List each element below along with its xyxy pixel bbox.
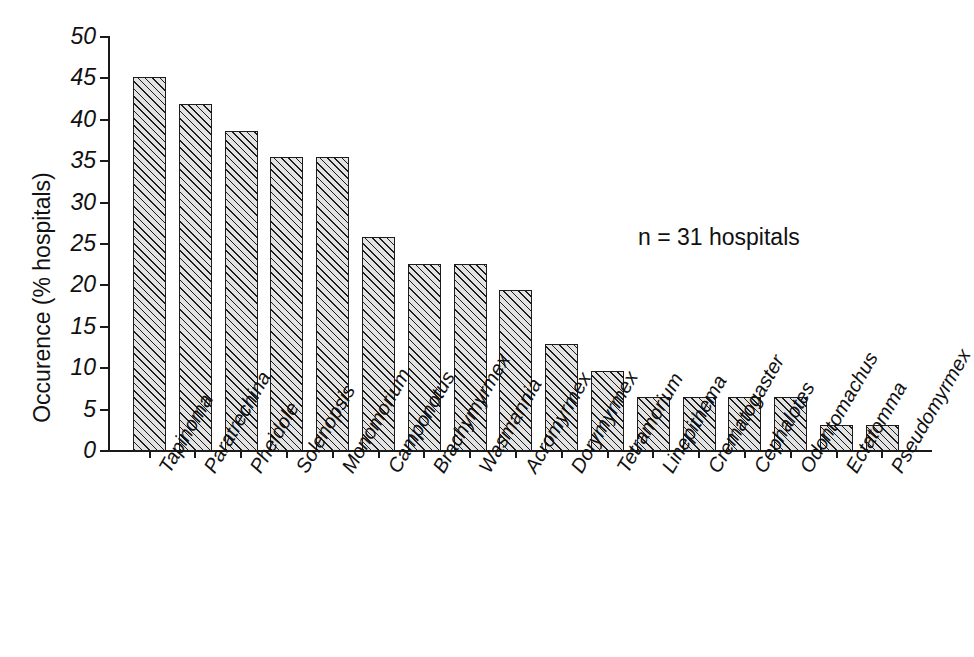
y-axis-tick [100,243,109,245]
x-axis-tick [149,451,151,458]
y-axis-tick-label: 0 [36,439,96,462]
y-axis-tick-label: 10 [36,356,96,379]
y-axis-tick-label: 5 [36,398,96,421]
x-axis-tick [469,451,471,458]
x-axis-tick [836,451,838,458]
bar [133,77,166,451]
x-axis-tick [744,451,746,458]
x-axis-tick [607,451,609,458]
bar-chart-figure: Occurence (% hospitals) 0510152025303540… [0,0,974,657]
y-axis-tick-label: 30 [36,191,96,214]
x-axis-tick [790,451,792,458]
x-axis-category-label: Pseudomyrmex [887,346,974,476]
y-axis-tick [100,119,109,121]
y-axis-tick [100,326,109,328]
y-axis-tick-label: 35 [36,149,96,172]
x-axis-tick [881,451,883,458]
x-axis-tick [698,451,700,458]
y-axis-tick-label: 45 [36,66,96,89]
x-axis-tick [561,451,563,458]
y-axis-tick [100,202,109,204]
x-axis-tick [378,451,380,458]
y-axis-tick-label: 50 [36,25,96,48]
y-axis-tick [100,284,109,286]
y-axis-tick [100,160,109,162]
y-axis-tick-labels: 05101520253035404550 [32,0,96,657]
y-axis-tick [100,77,109,79]
y-axis-tick-label: 40 [36,108,96,131]
x-axis-tick [240,451,242,458]
y-axis-tick [100,450,109,452]
x-axis-tick [194,451,196,458]
sample-size-annotation: n = 31 hospitals [638,224,800,251]
x-axis-tick [515,451,517,458]
x-axis-tick [286,451,288,458]
x-axis-tick [423,451,425,458]
x-axis-tick [652,451,654,458]
y-axis-tick-label: 20 [36,273,96,296]
y-axis-tick [100,367,109,369]
x-axis-tick [332,451,334,458]
y-axis-tick-label: 15 [36,315,96,338]
y-axis-tick [100,36,109,38]
y-axis-tick-label: 25 [36,232,96,255]
y-axis-tick [100,409,109,411]
